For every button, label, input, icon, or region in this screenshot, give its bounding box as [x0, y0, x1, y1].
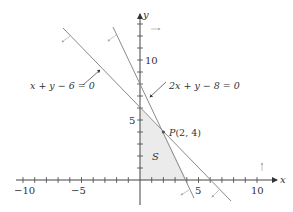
region-s-label: S: [152, 151, 159, 162]
arrow-mark-icon: [212, 190, 219, 197]
tick-label-x-10: 10: [251, 185, 264, 196]
x-axis-label: x: [280, 174, 286, 185]
arrow-mark-icon: [181, 190, 189, 195]
tick-label-x-neg5: −5: [71, 185, 86, 196]
arrow-mark-icon: [62, 36, 70, 42]
point-p: [162, 130, 165, 133]
feasible-region-chart: −10 −5 5 10 5 10 x y x + y − 6 = 0 2x + …: [0, 0, 293, 212]
arrow-mark-icon: [108, 35, 116, 41]
line2-equation-label: 2x + y − 8 = 0: [168, 80, 240, 91]
y-axis-label: y: [142, 9, 149, 20]
tick-label-x-5: 5: [195, 185, 201, 196]
line1-equation-label: x + y − 6 = 0: [30, 80, 95, 91]
point-p-label: P(2, 4): [168, 127, 201, 138]
tick-label-x-neg10: −10: [14, 185, 35, 196]
feasible-region-s: [140, 108, 187, 180]
tick-label-y-10: 10: [145, 55, 158, 66]
tick-label-y-5: 5: [129, 115, 135, 126]
leader-line2: [150, 82, 166, 97]
